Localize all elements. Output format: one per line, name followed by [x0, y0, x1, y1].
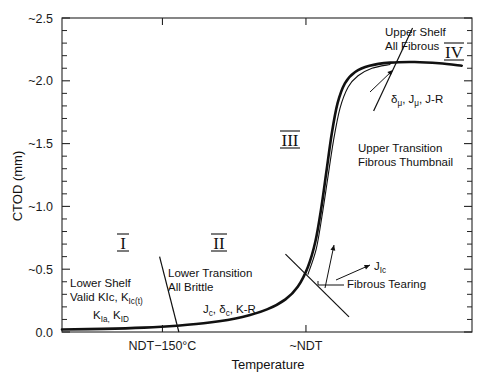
- lower-transition-line2: All Brittle: [168, 281, 213, 293]
- y-axis-title: CTOD (mm): [10, 151, 25, 222]
- upper-shelf-line2: All Fibrous: [385, 40, 440, 52]
- upper-shelf-line1: Upper Shelf: [385, 26, 447, 38]
- chart-background: [0, 0, 493, 374]
- region-numeral-II: II: [211, 234, 227, 253]
- y-tick-label: ~2.0: [28, 74, 53, 88]
- x-axis-title: Temperature: [232, 357, 305, 372]
- upper-transition-line2: Fibrous Thumbnail: [358, 156, 453, 168]
- upper-transition-line1: Upper Transition: [358, 142, 442, 154]
- ctod-temperature-chart: 0.0~0.5~1.0~1.5~2.0~2.5 NDT−150°C~NDT CT…: [0, 0, 493, 374]
- region-numeral-I-text: I: [120, 234, 126, 253]
- lower-transition-line1: Lower Transition: [168, 267, 252, 279]
- region-numeral-IV: IV: [444, 43, 464, 62]
- x-tick-label: NDT−150°C: [129, 339, 197, 353]
- region-numeral-II-text: II: [213, 234, 225, 253]
- y-tick-label: ~0.5: [28, 263, 53, 277]
- region-numeral-IV-text: IV: [445, 43, 464, 62]
- fibrous-tearing-label: Fibrous Tearing: [347, 278, 426, 290]
- y-tick-label: ~1.5: [28, 137, 53, 151]
- lower-shelf-line1: Lower Shelf: [70, 277, 132, 289]
- y-tick-label: ~2.5: [28, 12, 53, 26]
- y-tick-label: 0.0: [36, 326, 53, 340]
- region-numeral-III-text: III: [282, 131, 299, 150]
- region-numeral-III: III: [280, 131, 300, 150]
- x-tick-label: ~NDT: [289, 339, 322, 353]
- y-tick-label: ~1.0: [28, 200, 53, 214]
